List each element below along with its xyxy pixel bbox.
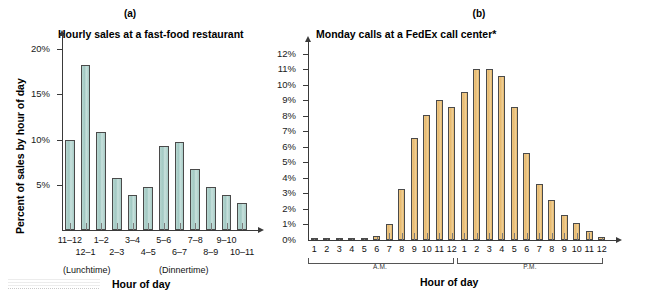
bar: [448, 107, 455, 240]
panel-b-y-tick: [303, 85, 308, 86]
panel-a-y-tick: [57, 185, 62, 186]
bar-baseline-tick: [314, 239, 315, 240]
bar-baseline-tick: [602, 238, 603, 240]
bar-baseline-tick: [70, 223, 71, 230]
bar: [536, 184, 543, 240]
bracket-pm-label: P.M.: [510, 263, 550, 270]
bar: [436, 100, 443, 240]
panel-b-y-tick-label: 7%: [272, 126, 296, 136]
bar-baseline-tick: [133, 223, 134, 230]
bar: [411, 138, 418, 240]
panel-b: (b) Monday calls at a FedEx call center*…: [272, 0, 650, 296]
panel-a-y-tick: [57, 49, 62, 50]
bar: [486, 69, 493, 240]
bar-baseline-tick: [552, 233, 553, 240]
panel-b-y-axis: [308, 42, 309, 240]
bar-baseline-tick: [477, 233, 478, 240]
panel-a-y-tick: [57, 140, 62, 141]
panel-b-plot-area: 0%1%2%3%4%5%6%7%8%9%10%11%12%12345678910…: [308, 46, 608, 240]
panel-b-y-tick: [303, 224, 308, 225]
bar-baseline-tick: [464, 233, 465, 240]
panel-b-x-axis-arrow: [616, 237, 622, 243]
bar: [190, 169, 200, 230]
bar-baseline-tick: [148, 223, 149, 230]
panel-b-y-axis-arrow: [305, 36, 311, 42]
panel-b-y-tick-label: 0%: [272, 235, 296, 245]
bar-baseline-tick: [211, 223, 212, 230]
bar-baseline-tick: [195, 223, 196, 230]
bar: [159, 146, 169, 230]
panel-b-y-tick-label: 5%: [272, 157, 296, 167]
bar-baseline-tick: [389, 233, 390, 240]
bar-baseline-tick: [514, 233, 515, 240]
panel-a-y-tick: [57, 94, 62, 95]
panel-b-y-tick: [303, 178, 308, 179]
panel-b-y-tick: [303, 209, 308, 210]
x-tick-label: 12: [593, 245, 611, 254]
panel-b-y-tick-label: 11%: [272, 64, 296, 74]
bar-baseline-tick: [489, 233, 490, 240]
bar-baseline-tick: [377, 237, 378, 240]
bar-baseline-tick: [452, 233, 453, 240]
panel-b-y-tick-label: 2%: [272, 204, 296, 214]
bar-baseline-tick: [364, 239, 365, 240]
bar-baseline-tick: [352, 239, 353, 240]
panel-a: (a) Hourly sales at a fast-food restaura…: [0, 0, 300, 296]
panel-b-y-tick: [303, 147, 308, 148]
bar-baseline-tick: [427, 233, 428, 240]
panel-b-y-tick-label: 8%: [272, 111, 296, 121]
bar: [461, 92, 468, 240]
panel-b-y-tick-label: 12%: [272, 49, 296, 59]
panel-a-y-tick-label: 15%: [24, 89, 50, 99]
panel-b-y-tick: [303, 193, 308, 194]
panel-a-y-tick-label: 20%: [24, 44, 50, 54]
panel-b-y-tick-label: 6%: [272, 142, 296, 152]
bar: [81, 65, 91, 230]
panel-a-x-axis-label: Hour of day: [112, 278, 170, 290]
panel-a-x-axis: [62, 230, 258, 231]
bar-baseline-tick: [327, 239, 328, 240]
bar-baseline-tick: [439, 233, 440, 240]
bar-baseline-tick: [539, 233, 540, 240]
panel-b-x-axis: [308, 240, 616, 241]
bar: [423, 115, 430, 240]
bar-baseline-tick: [577, 233, 578, 240]
bar-baseline-tick: [402, 233, 403, 240]
panel-b-y-tick-label: 1%: [272, 219, 296, 229]
panel-a-letter: (a): [0, 8, 280, 19]
panel-a-y-tick-label: 5%: [24, 180, 50, 190]
bar-baseline-tick: [589, 233, 590, 240]
bar: [175, 142, 185, 230]
panel-a-y-axis-arrow: [59, 30, 65, 36]
panel-b-title: Monday calls at a FedEx call center*: [316, 28, 496, 40]
panel-b-x-axis-label: Hour of day: [420, 276, 478, 288]
figure-two-histograms: (a) Hourly sales at a fast-food restaura…: [0, 0, 650, 296]
panel-a-plot-area: 5%10%15%20%11–1212–11–22–33–44–55–66–77–…: [62, 40, 250, 230]
page-artifact-block: [8, 279, 100, 286]
bar: [498, 76, 505, 240]
panel-a-note-lunchtime: (Lunchtime): [63, 265, 111, 275]
panel-b-y-tick-label: 3%: [272, 188, 296, 198]
bar-baseline-tick: [86, 223, 87, 230]
bar-baseline-tick: [564, 233, 565, 240]
panel-b-y-tick-label: 4%: [272, 173, 296, 183]
bar-baseline-tick: [242, 223, 243, 230]
panel-b-y-tick-label: 9%: [272, 95, 296, 105]
bar: [96, 132, 106, 230]
x-tick-label: 9–10: [207, 236, 247, 245]
panel-a-x-axis-arrow: [258, 227, 264, 233]
bar-baseline-tick: [180, 223, 181, 230]
panel-b-y-tick-label: 10%: [272, 80, 296, 90]
panel-a-y-tick-label: 10%: [24, 135, 50, 145]
bar: [511, 107, 518, 240]
page-artifact-line: [8, 288, 100, 289]
bar: [473, 69, 480, 240]
bar-baseline-tick: [502, 233, 503, 240]
panel-b-y-tick: [303, 69, 308, 70]
bar-baseline-tick: [414, 233, 415, 240]
bar-baseline-tick: [227, 223, 228, 230]
panel-a-y-axis: [62, 36, 63, 230]
panel-b-y-tick: [303, 162, 308, 163]
panel-b-letter: (b): [290, 8, 650, 19]
bracket-am-label: A.M.: [360, 263, 400, 270]
